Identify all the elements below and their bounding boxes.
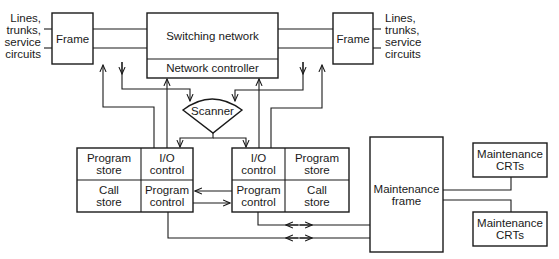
scanner: Scanner bbox=[183, 99, 242, 133]
left-program-control: Program control bbox=[145, 184, 189, 208]
svg-text:Program: Program bbox=[145, 184, 189, 196]
svg-text:service: service bbox=[5, 36, 41, 48]
left-frame: Frame bbox=[52, 13, 93, 64]
svg-text:frame: frame bbox=[392, 195, 421, 207]
left-call-store: Call store bbox=[96, 184, 122, 208]
scanner-to-right-processor-arrow bbox=[213, 138, 246, 147]
right-external-label: Lines, trunks, service circuits bbox=[385, 12, 421, 60]
maintenance-to-top-crt-link bbox=[443, 177, 511, 190]
right-program-control: Program control bbox=[236, 184, 280, 208]
svg-text:CRTs: CRTs bbox=[496, 160, 524, 172]
svg-text:Program: Program bbox=[295, 152, 339, 164]
svg-text:Call: Call bbox=[307, 184, 327, 196]
switching-network: Switching network Network controller bbox=[147, 13, 278, 78]
svg-text:trunks,: trunks, bbox=[385, 24, 420, 36]
svg-text:store: store bbox=[96, 164, 122, 176]
svg-text:Call: Call bbox=[99, 184, 119, 196]
svg-text:Lines,: Lines, bbox=[10, 12, 41, 24]
svg-text:Program: Program bbox=[236, 184, 280, 196]
maintenance-to-bottom-crt-link bbox=[443, 200, 511, 212]
svg-text:control: control bbox=[150, 164, 185, 176]
maintenance-frame: Maintenance frame bbox=[370, 137, 443, 252]
svg-text:control: control bbox=[241, 164, 276, 176]
maintenance-crts-top: Maintenance CRTs bbox=[473, 143, 547, 177]
left-external-label: Lines, trunks, service circuits bbox=[5, 12, 42, 60]
network-controller: Network controller bbox=[166, 62, 259, 74]
svg-text:Maintenance: Maintenance bbox=[374, 183, 440, 195]
svg-text:Lines,: Lines, bbox=[385, 12, 416, 24]
scanner-to-left-processor-arrow bbox=[180, 133, 213, 147]
svg-text:Frame: Frame bbox=[336, 33, 369, 45]
right-processor: I/O control Program store Program contro… bbox=[232, 148, 349, 212]
svg-text:trunks,: trunks, bbox=[6, 24, 41, 36]
svg-text:control: control bbox=[150, 196, 185, 208]
svg-text:store: store bbox=[304, 164, 330, 176]
switching-system-diagram: Lines, trunks, service circuits Frame Sw… bbox=[0, 0, 559, 259]
svg-text:I/O: I/O bbox=[251, 152, 266, 164]
left-processor: Program store I/O control Call store Pro… bbox=[77, 148, 193, 212]
maintenance-crts-bottom: Maintenance CRTs bbox=[473, 212, 547, 246]
svg-text:Scanner: Scanner bbox=[191, 105, 234, 117]
svg-text:store: store bbox=[304, 196, 330, 208]
svg-text:control: control bbox=[241, 196, 276, 208]
right-frame: Frame bbox=[333, 13, 373, 64]
svg-text:Maintenance: Maintenance bbox=[477, 217, 543, 229]
svg-text:Program: Program bbox=[87, 152, 131, 164]
svg-text:store: store bbox=[96, 196, 122, 208]
svg-text:circuits: circuits bbox=[385, 48, 421, 60]
svg-text:service: service bbox=[385, 36, 421, 48]
svg-text:Switching network: Switching network bbox=[166, 30, 259, 42]
svg-text:CRTs: CRTs bbox=[496, 229, 524, 241]
svg-text:Maintenance: Maintenance bbox=[477, 148, 543, 160]
svg-text:circuits: circuits bbox=[5, 48, 41, 60]
svg-text:I/O: I/O bbox=[159, 152, 174, 164]
right-processor-maintenance-link bbox=[258, 212, 370, 225]
svg-text:Frame: Frame bbox=[56, 33, 89, 45]
right-call-store: Call store bbox=[304, 184, 330, 208]
